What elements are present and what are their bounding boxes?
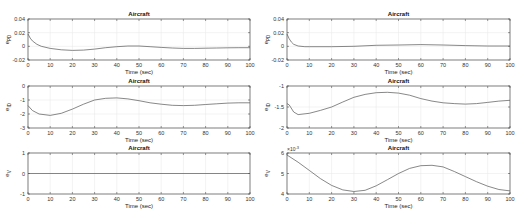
x-tick-label: 10: [47, 130, 53, 136]
x-tick-label: 50: [395, 196, 401, 202]
y-exponent-label: ×10-3: [287, 145, 300, 152]
subplot-4: 0102030405060708090100-0.0200.020.04Airc…: [263, 11, 515, 75]
y-tick-label: -2: [279, 125, 284, 131]
x-tick-label: 70: [440, 196, 446, 202]
y-tick-label: 1: [22, 150, 25, 156]
x-tick-label: 80: [203, 62, 209, 68]
plot-title: Aircraft: [388, 145, 409, 151]
x-tick-label: 10: [306, 196, 312, 202]
y-axis-label: ePD: [4, 34, 12, 44]
y-tick-label: 0.04: [14, 16, 25, 22]
x-tick-label: 20: [329, 196, 335, 202]
x-tick-label: 0: [285, 196, 288, 202]
subplot-6: 0102030405060708090100456AircraftTime (s…: [263, 145, 515, 209]
x-axis-label: Time (sec): [384, 203, 412, 209]
y-tick-label: -1: [279, 83, 284, 89]
x-tick-label: 100: [505, 196, 514, 202]
y-tick-label: -1: [20, 191, 25, 197]
x-tick-label: 70: [440, 130, 446, 136]
x-tick-label: 20: [69, 62, 75, 68]
plot-title: Aircraft: [388, 78, 409, 84]
y-tick-label: -0.02: [271, 57, 284, 63]
x-tick-label: 50: [395, 130, 401, 136]
x-tick-label: 10: [306, 62, 312, 68]
x-tick-label: 90: [485, 62, 491, 68]
x-tick-label: 30: [92, 62, 98, 68]
x-tick-label: 20: [329, 62, 335, 68]
x-tick-label: 80: [462, 130, 468, 136]
y-tick-label: -1.5: [275, 104, 284, 110]
x-tick-label: 70: [440, 62, 446, 68]
y-axis-label: eID: [263, 102, 271, 111]
y-axis-label: eV: [4, 170, 12, 176]
subplot-5: 0102030405060708090100-2-1.5-1AircraftTi…: [263, 78, 515, 143]
y-tick-label: 0: [22, 171, 25, 177]
x-tick-label: 80: [203, 196, 209, 202]
y-tick-label: -3: [20, 125, 25, 131]
x-tick-label: 20: [329, 130, 335, 136]
y-axis-label: eV: [263, 170, 271, 176]
x-axis-label: Time (sec): [384, 69, 412, 75]
x-tick-label: 100: [505, 62, 514, 68]
x-tick-label: 70: [180, 196, 186, 202]
plot-title: Aircraft: [128, 145, 149, 151]
x-tick-label: 60: [158, 62, 164, 68]
subplot-2: 0102030405060708090100-3-2-10AircraftTim…: [4, 78, 255, 143]
x-tick-label: 40: [373, 62, 379, 68]
x-tick-label: 80: [462, 62, 468, 68]
x-tick-label: 100: [245, 130, 254, 136]
x-tick-label: 60: [158, 130, 164, 136]
x-tick-label: 40: [373, 196, 379, 202]
x-tick-label: 70: [180, 62, 186, 68]
x-tick-label: 30: [351, 62, 357, 68]
x-tick-label: 60: [418, 130, 424, 136]
x-tick-label: 30: [92, 196, 98, 202]
y-axis-label: ePD: [263, 34, 271, 44]
x-tick-label: 30: [92, 130, 98, 136]
subplot-3: 0102030405060708090100-101AircraftTime (…: [4, 145, 255, 209]
x-tick-label: 0: [26, 196, 29, 202]
x-axis-label: Time (sec): [125, 203, 153, 209]
x-tick-label: 40: [114, 62, 120, 68]
y-tick-label: -2: [20, 111, 25, 117]
x-tick-label: 70: [180, 130, 186, 136]
y-tick-label: 4: [281, 191, 284, 197]
x-tick-label: 40: [114, 196, 120, 202]
x-axis-label: Time (sec): [384, 137, 412, 143]
x-tick-label: 60: [418, 196, 424, 202]
y-tick-label: 0: [22, 83, 25, 89]
y-tick-label: -0.02: [12, 57, 25, 63]
x-tick-label: 0: [26, 62, 29, 68]
x-tick-label: 10: [47, 196, 53, 202]
y-tick-label: 5: [281, 171, 284, 177]
x-tick-label: 100: [505, 130, 514, 136]
x-tick-label: 50: [395, 62, 401, 68]
x-tick-label: 90: [225, 196, 231, 202]
x-tick-label: 10: [47, 62, 53, 68]
x-tick-label: 60: [158, 196, 164, 202]
y-tick-label: 6: [281, 150, 284, 156]
y-tick-label: 0: [281, 43, 284, 49]
y-tick-label: 0.04: [273, 16, 284, 22]
figure-canvas: 0102030405060708090100-0.0200.020.04Airc…: [0, 0, 520, 220]
y-tick-label: 0.02: [14, 30, 25, 36]
x-axis-label: Time (sec): [125, 69, 153, 75]
plot-title: Aircraft: [128, 11, 149, 17]
y-axis-label: eID: [4, 102, 12, 111]
x-tick-label: 40: [114, 130, 120, 136]
y-tick-label: 0: [22, 43, 25, 49]
x-tick-label: 50: [136, 196, 142, 202]
x-tick-label: 60: [418, 62, 424, 68]
y-tick-label: 0.02: [273, 30, 284, 36]
x-tick-label: 80: [203, 130, 209, 136]
x-tick-label: 50: [136, 62, 142, 68]
y-tick-label: -1: [20, 97, 25, 103]
plot-title: Aircraft: [388, 11, 409, 17]
x-tick-label: 90: [485, 196, 491, 202]
subplot-1: 0102030405060708090100-0.0200.020.04Airc…: [4, 11, 255, 75]
x-tick-label: 90: [225, 62, 231, 68]
x-tick-label: 20: [69, 130, 75, 136]
x-axis-label: Time (sec): [125, 137, 153, 143]
x-tick-label: 80: [462, 196, 468, 202]
x-tick-label: 0: [285, 130, 288, 136]
